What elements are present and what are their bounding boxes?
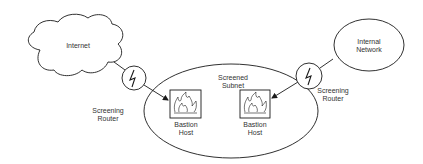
left-bastion-label-line2: Host: [179, 129, 193, 136]
router-to-bastion-arrow-right: [272, 82, 298, 98]
left-screening-router: Screening Router: [92, 66, 146, 122]
left-router-label-line2: Router: [97, 115, 119, 122]
router-to-internal-link: [320, 59, 333, 68]
left-bastion-label-line1: Bastion: [174, 121, 197, 128]
right-screening-router: Screening Router: [296, 63, 349, 102]
right-bastion-label-line2: Host: [248, 129, 262, 136]
right-router-label-line1: Screening: [317, 87, 349, 95]
internal-network: Internal Network: [334, 19, 404, 71]
screened-subnet-label-line2: Subnet: [222, 82, 244, 89]
internet-label: Internet: [66, 42, 90, 49]
right-bastion-host: Bastion Host: [240, 90, 270, 136]
right-bastion-label-line1: Bastion: [243, 121, 266, 128]
internal-network-label-line1: Internal: [357, 38, 381, 45]
internet-to-router-link: [114, 62, 125, 70]
internet-cloud: Internet: [28, 14, 122, 75]
left-router-label-line1: Screening: [92, 107, 124, 115]
internal-network-label-line2: Network: [356, 46, 382, 53]
left-bastion-host: Bastion Host: [170, 90, 201, 136]
screened-subnet-label-line1: Screened: [218, 74, 248, 81]
network-diagram: Internet Screening Router Screened Subne…: [0, 0, 423, 164]
right-router-label-line2: Router: [322, 95, 344, 102]
